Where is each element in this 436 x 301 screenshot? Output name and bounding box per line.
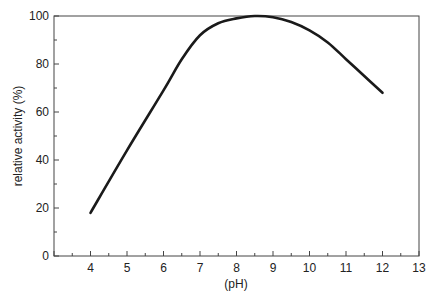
tick-labels: 45678910111213020406080100 xyxy=(29,9,426,275)
x-tick-label: 8 xyxy=(233,261,240,275)
y-tick-label: 60 xyxy=(36,105,50,119)
x-axis-label: (pH) xyxy=(224,277,247,291)
activity-curve xyxy=(91,16,383,213)
y-tick-label: 0 xyxy=(42,249,49,263)
x-tick-label: 6 xyxy=(160,261,167,275)
x-tick-label: 5 xyxy=(124,261,131,275)
axis-ticks xyxy=(54,16,419,256)
y-tick-label: 20 xyxy=(36,201,50,215)
x-tick-label: 11 xyxy=(340,261,353,275)
y-tick-label: 100 xyxy=(29,9,49,23)
y-tick-label: 80 xyxy=(36,57,50,71)
x-tick-label: 7 xyxy=(197,261,204,275)
x-tick-label: 9 xyxy=(270,261,277,275)
plot-border xyxy=(54,16,419,256)
plot-frame xyxy=(54,16,419,256)
x-tick-label: 12 xyxy=(376,261,390,275)
y-axis-label: relative activity (%) xyxy=(11,86,25,187)
chart: 45678910111213020406080100 (pH) relative… xyxy=(0,0,436,301)
x-tick-label: 4 xyxy=(87,261,94,275)
x-tick-label: 13 xyxy=(412,261,426,275)
y-tick-label: 40 xyxy=(36,153,50,167)
x-tick-label: 10 xyxy=(303,261,317,275)
